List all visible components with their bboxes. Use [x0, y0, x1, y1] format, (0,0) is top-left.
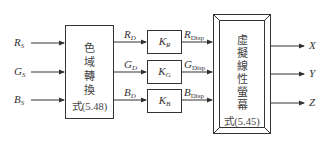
output-label-z: Z [309, 97, 315, 108]
signal-label-gd: GD [124, 59, 137, 72]
input-label-bs: BS [14, 94, 24, 107]
output-label-x: X [309, 40, 316, 51]
gain-block-kr: KR [147, 30, 182, 54]
input-label-rs: RS [14, 37, 24, 50]
signal-label-rd: RD [124, 29, 136, 42]
gamut-block-label: 色 域 轉 換 式(5.48) [66, 42, 113, 114]
signal-label-rdisp: RDisp [184, 29, 204, 42]
signal-label-bdisp: BDisp [184, 87, 204, 100]
gamut-equation-ref: 式(5.48) [66, 100, 113, 114]
signal-label-bd: BD [124, 87, 136, 100]
gain-block-kg: KG [147, 60, 182, 84]
output-label-y: Y [309, 68, 315, 79]
input-label-gs: GS [14, 66, 25, 79]
gain-block-kb: KB [147, 89, 182, 113]
signal-label-gdisp: GDisp [184, 59, 205, 72]
screen-block-label: 虛 擬 線 性 螢 幕 式(5.45) [220, 34, 264, 128]
screen-equation-ref: 式(5.45) [220, 115, 264, 128]
